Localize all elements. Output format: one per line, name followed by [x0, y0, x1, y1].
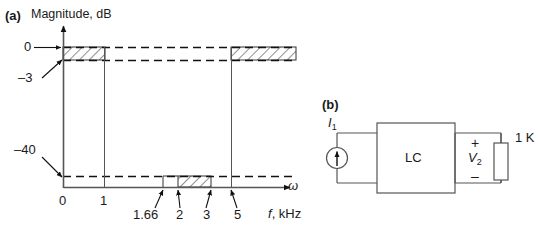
x-axis-title: f, kHz	[268, 207, 301, 220]
polarity-minus-label: –	[471, 169, 479, 183]
passband-hatch-left	[63, 47, 105, 60]
tick-leader-3	[206, 190, 211, 208]
leader-minus3db	[42, 60, 62, 78]
lc-network-label: LC	[405, 151, 422, 164]
y-tick-label-minus3: –3	[18, 71, 32, 84]
output-voltage-label: V2	[468, 151, 482, 167]
output-voltage-symbol: V	[468, 150, 477, 165]
figure-container: (a) Magnitude, dB 0 –3 –40 0 1 1.66 2 3 …	[0, 0, 542, 228]
polarity-plus-label: +	[471, 136, 479, 150]
x-tick-label-1: 1	[100, 194, 107, 207]
passband-hatch-right	[231, 47, 296, 60]
tick-leader-2	[178, 190, 180, 208]
resistor-value-label: 1 K	[515, 131, 535, 144]
x-tick-label-5: 5	[234, 208, 241, 221]
panel-b-tag: (b)	[322, 98, 339, 111]
y-tick-label-minus40: –40	[14, 143, 36, 156]
tick-leader-166	[155, 190, 163, 208]
omega-axis-symbol: ω	[288, 179, 298, 192]
output-voltage-subscript: 2	[477, 157, 482, 167]
stopband-hatch	[178, 176, 211, 187]
source-current-subscript: 1	[332, 122, 337, 132]
x-axis-title-units: , kHz	[272, 206, 302, 221]
x-tick-label-2: 2	[176, 208, 183, 221]
y-axis-title: Magnitude, dB	[31, 8, 112, 21]
panel-a-plot-svg	[0, 0, 542, 228]
y-tick-label-0: 0	[24, 40, 31, 53]
panel-a-tag: (a)	[5, 9, 21, 22]
leader-minus40db	[42, 157, 62, 177]
x-tick-label-166: 1.66	[133, 208, 158, 221]
tick-leader-5	[231, 190, 237, 208]
resistor-symbol	[494, 143, 508, 180]
x-tick-label-0: 0	[59, 194, 66, 207]
source-current-label: I1	[328, 116, 337, 132]
x-tick-label-3: 3	[203, 208, 210, 221]
stopband-riser	[163, 176, 178, 187]
